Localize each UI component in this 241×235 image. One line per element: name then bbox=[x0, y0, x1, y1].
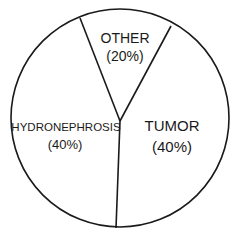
pie-chart: OTHER (20%) TUMOR (40%) HYDRONEPHROSIS (… bbox=[0, 0, 241, 235]
slice-pct-hydronephrosis: (40%) bbox=[48, 137, 83, 152]
slice-label-tumor: TUMOR bbox=[145, 117, 200, 134]
slice-label-other: OTHER bbox=[101, 30, 150, 46]
slice-pct-other: (20%) bbox=[106, 48, 143, 64]
slice-pct-tumor: (40%) bbox=[152, 138, 192, 155]
slice-label-hydronephrosis: HYDRONEPHROSIS bbox=[11, 121, 121, 133]
